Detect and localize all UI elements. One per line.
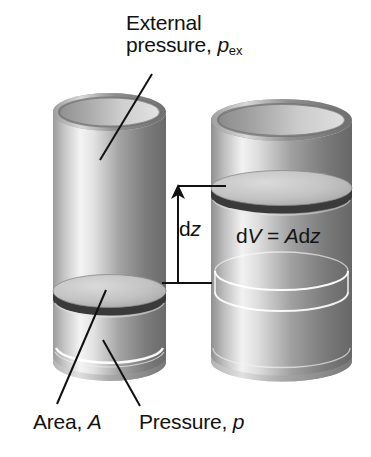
dv-z: z [310, 224, 320, 247]
external-pressure-symbol: p [217, 33, 228, 56]
dz-label-symbol: z [190, 217, 200, 240]
pressure-leader-line [103, 340, 140, 406]
dv-d2: d [298, 224, 309, 247]
dv-v: V [247, 224, 261, 247]
dv-equation-label: dV = Adz [236, 225, 320, 247]
area-label-text: Area, [33, 410, 88, 433]
external-pressure-label-line1: External [126, 12, 243, 34]
dz-label-d: d [179, 217, 190, 240]
external-pressure-label-text: pressure, [126, 33, 217, 56]
area-symbol: A [88, 410, 102, 433]
pressure-label: Pressure, p [139, 411, 244, 433]
pressure-label-text: Pressure, [139, 410, 233, 433]
dv-a: A [285, 224, 299, 247]
external-pressure-label: External pressure, pex [126, 12, 243, 58]
dv-d1: d [236, 224, 247, 247]
area-leader-line [57, 290, 106, 404]
pressure-symbol: p [233, 410, 244, 433]
dv-equals: = [261, 224, 284, 247]
dz-label: dz [179, 218, 201, 240]
external-pressure-subscript: ex [229, 43, 243, 58]
area-label: Area, A [33, 411, 102, 433]
pressure-volume-work-figure: External pressure, pex dz dV = Adz Area,… [0, 0, 371, 457]
external-pressure-label-line2: pressure, pex [126, 34, 243, 58]
external-pressure-leader-line [100, 74, 152, 160]
